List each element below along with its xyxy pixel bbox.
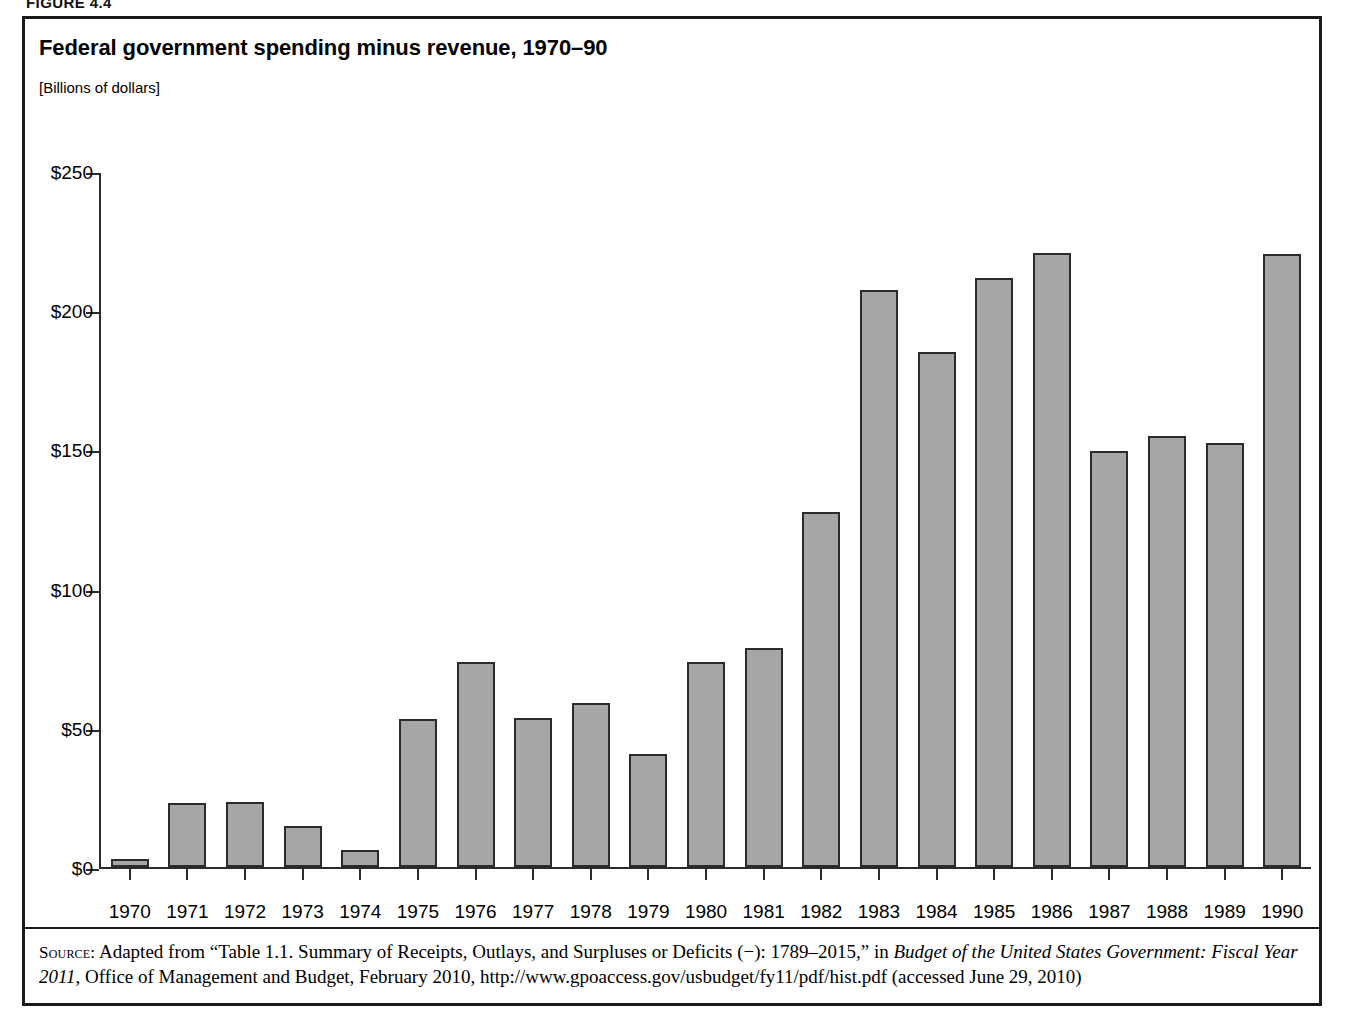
page-title: Federal government spending minus revenu… (39, 35, 607, 61)
y-axis-tick-label: $200 (51, 301, 93, 323)
bar-slot: 1990 (1254, 173, 1312, 867)
x-axis-tick-mark (1224, 869, 1226, 880)
bar-slot: 1985 (965, 173, 1023, 867)
x-axis-tick-label: 1984 (915, 901, 957, 923)
bar[interactable] (860, 290, 898, 867)
y-axis-tick-label: $250 (51, 162, 93, 184)
y-axis-tick-label: $50 (61, 719, 93, 741)
bar-slot: 1982 (793, 173, 851, 867)
bar-slot: 1970 (101, 173, 159, 867)
bar-slot: 1975 (389, 173, 447, 867)
x-axis-tick-label: 1979 (627, 901, 669, 923)
chart-plot-area: $250$200$150$100$50$0 197019711972197319… (99, 173, 1311, 869)
bar[interactable] (341, 850, 379, 867)
bar-slot: 1976 (447, 173, 505, 867)
x-axis-tick-label: 1988 (1146, 901, 1188, 923)
chart-units-subtitle: [Billions of dollars] (39, 79, 160, 96)
bar[interactable] (168, 803, 206, 867)
bar[interactable] (745, 648, 783, 867)
bar-slot: 1973 (274, 173, 332, 867)
bar-slot: 1981 (735, 173, 793, 867)
bar[interactable] (1263, 254, 1301, 867)
x-axis-tick-mark (705, 869, 707, 880)
bar[interactable] (1206, 443, 1244, 867)
x-axis-tick-mark (532, 869, 534, 880)
x-axis-tick-mark (244, 869, 246, 880)
x-axis-tick-mark (993, 869, 995, 880)
x-axis-tick-label: 1987 (1088, 901, 1130, 923)
x-axis-tick-label: 1970 (109, 901, 151, 923)
x-axis-tick-mark (186, 869, 188, 880)
bar-slot: 1971 (159, 173, 217, 867)
x-axis-tick-mark (820, 869, 822, 880)
bar[interactable] (514, 718, 552, 867)
x-axis-tick-mark (359, 869, 361, 880)
bar[interactable] (1033, 253, 1071, 867)
x-axis-tick-label: 1990 (1261, 901, 1303, 923)
source-divider (25, 927, 1319, 929)
x-axis-tick-mark (129, 869, 131, 880)
bar-slot: 1980 (677, 173, 735, 867)
figure-label: FIGURE 4.4 (26, 0, 112, 8)
x-axis-tick-mark (1108, 869, 1110, 880)
x-axis-tick-label: 1989 (1204, 901, 1246, 923)
bar-slot: 1988 (1138, 173, 1196, 867)
bar[interactable] (802, 512, 840, 867)
x-axis-tick-mark (302, 869, 304, 880)
bar[interactable] (1090, 451, 1128, 867)
x-axis-tick-mark (763, 869, 765, 880)
bar[interactable] (226, 802, 264, 867)
bar-slot: 1974 (332, 173, 390, 867)
source-text-2: , Office of Management and Budget, Febru… (76, 966, 1082, 987)
bar[interactable] (111, 859, 149, 867)
bar[interactable] (1148, 436, 1186, 867)
x-axis-tick-label: 1980 (685, 901, 727, 923)
y-axis-tick-label: $150 (51, 440, 93, 462)
y-axis-tick-label: $100 (51, 580, 93, 602)
x-axis-tick-mark (590, 869, 592, 880)
x-axis-tick-label: 1971 (166, 901, 208, 923)
y-axis-tick-label: $0 (72, 858, 93, 880)
bar[interactable] (457, 662, 495, 867)
bar[interactable] (918, 352, 956, 867)
source-kicker: Source: (39, 943, 95, 962)
x-axis-tick-mark (647, 869, 649, 880)
bar-slot: 1986 (1023, 173, 1081, 867)
bar-slot: 1987 (1081, 173, 1139, 867)
x-axis-tick-label: 1972 (224, 901, 266, 923)
bar-slot: 1977 (504, 173, 562, 867)
figure-container: Federal government spending minus revenu… (22, 16, 1322, 1006)
x-axis-tick-label: 1985 (973, 901, 1015, 923)
bar-slot: 1972 (216, 173, 274, 867)
bar-slot: 1984 (908, 173, 966, 867)
x-axis-tick-label: 1973 (282, 901, 324, 923)
source-text-1: Adapted from “Table 1.1. Summary of Rece… (95, 941, 893, 962)
x-axis-tick-label: 1986 (1031, 901, 1073, 923)
bar[interactable] (629, 754, 667, 867)
x-axis-tick-label: 1974 (339, 901, 381, 923)
bar[interactable] (399, 719, 437, 867)
x-axis-tick-label: 1975 (397, 901, 439, 923)
x-axis-tick-mark (417, 869, 419, 880)
bar-series: 1970197119721973197419751976197719781979… (101, 173, 1311, 867)
x-axis-tick-label: 1978 (570, 901, 612, 923)
x-axis-tick-mark (475, 869, 477, 880)
bar[interactable] (975, 278, 1013, 867)
x-axis-tick-mark (878, 869, 880, 880)
x-axis-tick-mark (1166, 869, 1168, 880)
bar-slot: 1978 (562, 173, 620, 867)
x-axis-tick-mark (1051, 869, 1053, 880)
bar-slot: 1989 (1196, 173, 1254, 867)
bar-slot: 1983 (850, 173, 908, 867)
x-axis-tick-label: 1981 (743, 901, 785, 923)
x-axis-tick-label: 1983 (858, 901, 900, 923)
x-axis-tick-label: 1977 (512, 901, 554, 923)
x-axis-tick-label: 1982 (800, 901, 842, 923)
bar-slot: 1979 (620, 173, 678, 867)
bar[interactable] (572, 703, 610, 867)
bar[interactable] (284, 826, 322, 867)
bar[interactable] (687, 662, 725, 867)
x-axis-tick-mark (1281, 869, 1283, 880)
x-axis-tick-label: 1976 (454, 901, 496, 923)
x-axis-tick-mark (936, 869, 938, 880)
